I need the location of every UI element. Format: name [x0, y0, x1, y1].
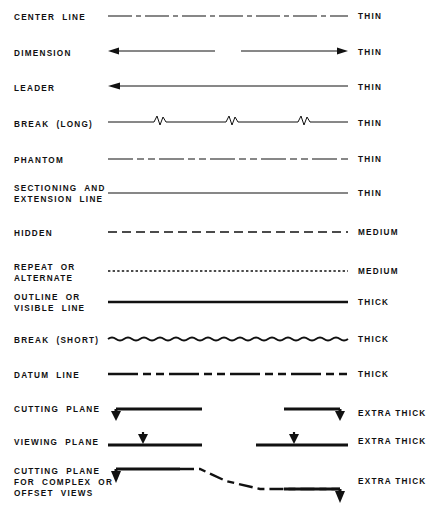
line-type-label-line3: OFFSET VIEWS [14, 488, 93, 499]
line-sample-outline-visible [108, 294, 348, 310]
line-weight-label: MEDIUM [358, 267, 399, 276]
line-sample-cutting-plane [108, 401, 348, 425]
line-type-label: SECTIONING AND [14, 183, 106, 194]
line-type-label: BREAK (SHORT) [14, 335, 99, 346]
line-weight-label: EXTRA THICK [358, 437, 426, 446]
line-type-label: PHANTOM [14, 155, 64, 166]
line-type-label: REPEAT OR [14, 262, 75, 273]
line-type-label: OUTLINE OR [14, 292, 81, 303]
line-type-label: LEADER [14, 83, 55, 94]
line-sample-dimension [108, 43, 348, 59]
line-type-label-line2: VISIBLE LINE [14, 303, 85, 314]
line-type-label: CUTTING PLANE [14, 466, 100, 477]
line-weight-label: THIN [358, 12, 382, 21]
line-type-label: CUTTING PLANE [14, 404, 100, 415]
line-sample-break-long [108, 111, 348, 131]
line-sample-leader [108, 78, 348, 94]
line-sample-hidden [108, 224, 348, 240]
line-weight-label: THIN [358, 83, 382, 92]
line-type-label-line2: ALTERNATE [14, 273, 73, 284]
line-sample-viewing-plane [108, 428, 348, 452]
line-weight-label: THIN [358, 155, 382, 164]
line-weight-label: EXTRA THICK [358, 477, 426, 486]
line-sample-phantom [108, 151, 348, 167]
line-sample-offset-cutting-plane [108, 463, 348, 509]
line-sample-repeat-alternate [108, 263, 348, 279]
line-type-label-line2: EXTENSION LINE [14, 194, 103, 205]
line-type-label: DATUM LINE [14, 370, 80, 381]
line-weight-label: THICK [358, 298, 389, 307]
line-weight-label: MEDIUM [358, 228, 399, 237]
line-type-label: DIMENSION [14, 48, 72, 59]
line-weight-label: THIN [358, 119, 382, 128]
line-type-label: CENTER LINE [14, 12, 86, 23]
line-sample-sectioning-extension [108, 185, 348, 201]
line-weight-label: THIN [358, 48, 382, 57]
line-sample-break-short [108, 330, 348, 348]
line-sample-center-line [108, 8, 348, 24]
line-weight-label: EXTRA THICK [358, 409, 426, 418]
line-type-label: BREAK (LONG) [14, 119, 93, 130]
line-type-label-line2: FOR COMPLEX OR [14, 477, 113, 488]
line-weight-label: THIN [358, 189, 382, 198]
line-conventions-chart: CENTER LINE THIN DIMENSION THIN LEADER [0, 0, 447, 517]
line-sample-datum-line [108, 366, 348, 382]
line-weight-label: THICK [358, 335, 389, 344]
line-weight-label: THICK [358, 370, 389, 379]
line-type-label: HIDDEN [14, 228, 53, 239]
line-type-label: VIEWING PLANE [14, 437, 99, 448]
